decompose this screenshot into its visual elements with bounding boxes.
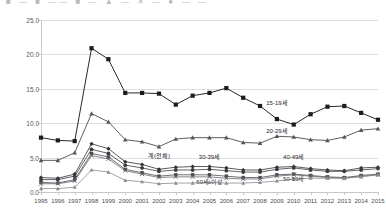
data-point-marker <box>191 168 195 172</box>
data-point-marker <box>326 169 330 173</box>
data-point-marker <box>39 136 43 140</box>
data-point-marker <box>342 169 346 173</box>
data-point-marker <box>359 111 363 115</box>
data-point-marker <box>275 167 279 171</box>
data-point-marker <box>123 163 127 167</box>
data-point-marker <box>90 147 94 151</box>
data-point-marker <box>157 92 161 96</box>
data-point-marker <box>106 57 110 61</box>
data-point-marker <box>292 122 296 126</box>
data-point-marker <box>72 150 77 154</box>
data-point-marker <box>89 142 93 146</box>
data-point-marker <box>224 169 228 173</box>
data-point-marker <box>208 167 212 171</box>
series-label-2: 20-29세 <box>266 126 287 135</box>
series-label-4: 30-39세 <box>199 151 220 160</box>
chart-container: ■ — ■ —— ■ — ▲ — ✕ — ● — — 0.05.010.015.… <box>0 0 386 214</box>
series-label-6: 50-59세 <box>283 174 304 183</box>
data-point-marker <box>258 170 262 174</box>
data-point-marker <box>292 166 296 170</box>
data-point-marker <box>191 94 195 98</box>
data-point-marker <box>140 91 144 95</box>
data-point-marker <box>275 117 279 121</box>
data-point-marker <box>359 168 363 172</box>
series-1 <box>39 46 380 143</box>
data-point-marker <box>140 166 144 170</box>
data-point-marker <box>207 91 211 95</box>
data-point-marker <box>107 152 111 156</box>
series-label-5: 40-49세 <box>283 152 304 161</box>
data-point-marker <box>241 96 245 100</box>
data-point-marker <box>376 167 380 171</box>
series-layer <box>0 0 386 214</box>
data-point-marker <box>89 111 94 115</box>
data-point-marker <box>376 118 380 122</box>
series-label-7: 60세 이상 <box>196 176 222 185</box>
data-point-marker <box>123 91 127 95</box>
data-point-marker <box>191 164 195 168</box>
data-point-marker <box>309 112 313 116</box>
data-point-marker <box>174 168 178 172</box>
data-point-marker <box>258 104 262 108</box>
data-point-marker <box>241 170 245 174</box>
data-point-marker <box>106 120 111 124</box>
series-label-1: 15-19세 <box>266 97 287 106</box>
data-point-marker <box>224 86 228 90</box>
data-point-marker <box>56 138 60 142</box>
series-label-3: 계(전체) <box>148 150 170 159</box>
data-point-marker <box>342 104 346 108</box>
data-point-marker <box>309 168 313 172</box>
data-point-marker <box>140 162 144 166</box>
data-point-marker <box>157 169 161 173</box>
data-point-marker <box>73 139 77 143</box>
data-point-marker <box>325 105 329 109</box>
data-point-marker <box>89 46 93 50</box>
data-point-marker <box>56 178 60 182</box>
data-point-marker <box>174 103 178 107</box>
